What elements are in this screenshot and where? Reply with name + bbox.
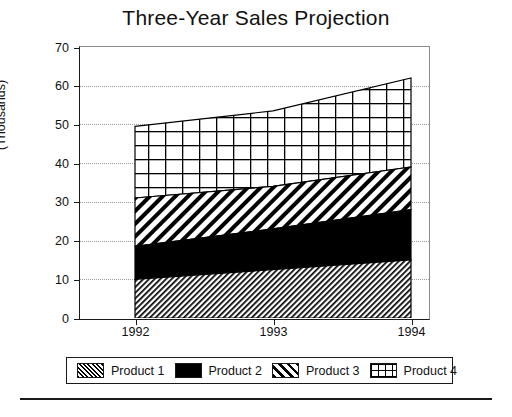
stacked-area-series <box>80 47 428 318</box>
x-tick-label: 1993 <box>244 325 304 339</box>
chart-page: Three-Year Sales Projection (Thousands) … <box>0 0 512 417</box>
legend-swatch-icon <box>272 363 299 378</box>
y-tick-label: 10 <box>36 274 69 287</box>
legend-label: Product 3 <box>306 364 360 378</box>
y-tick-label: 50 <box>36 119 69 132</box>
x-tick-label: 1992 <box>106 325 166 339</box>
legend-label: Product 1 <box>111 364 165 378</box>
chart-legend: Product 1Product 2Product 3Product 4 <box>66 357 453 384</box>
legend-item-3[interactable]: Product 3 <box>272 363 360 378</box>
plot-area <box>79 46 430 320</box>
y-tick-label: 40 <box>36 158 69 171</box>
legend-swatch-icon <box>175 363 202 378</box>
legend-label: Product 4 <box>404 364 458 378</box>
y-axis-label: (Thousands) <box>0 80 8 150</box>
legend-item-1[interactable]: Product 1 <box>77 363 165 378</box>
x-tick-label: 1994 <box>382 325 442 339</box>
bottom-divider <box>20 398 492 400</box>
y-tick-label: 60 <box>36 80 69 93</box>
legend-item-4[interactable]: Product 4 <box>370 363 458 378</box>
y-tick-label: 70 <box>36 42 69 55</box>
x-tick-mark <box>274 320 275 325</box>
chart-title: Three-Year Sales Projection <box>0 6 512 30</box>
legend-item-2[interactable]: Product 2 <box>175 363 263 378</box>
legend-swatch-icon <box>370 363 397 378</box>
y-tick-label: 20 <box>36 235 69 248</box>
x-tick-mark <box>136 320 137 325</box>
legend-label: Product 2 <box>209 364 263 378</box>
legend-swatch-icon <box>77 363 104 378</box>
y-tick-label: 30 <box>36 196 69 209</box>
x-tick-mark <box>412 320 413 325</box>
y-tick-label: 0 <box>36 313 69 326</box>
